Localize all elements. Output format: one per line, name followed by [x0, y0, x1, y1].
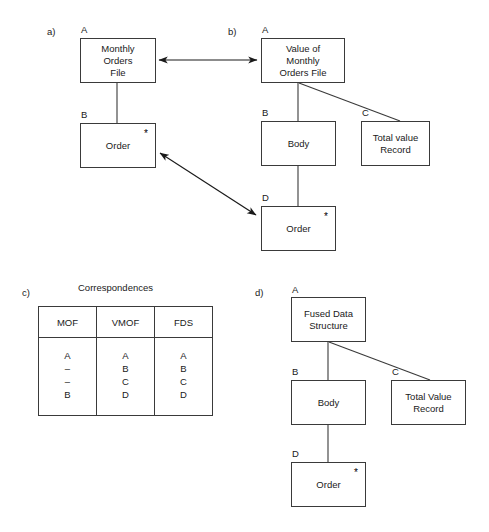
- node-label-b-C: Total value Record: [373, 132, 418, 156]
- table-header-vmof: VMOF: [97, 307, 155, 338]
- node-tag-b-B: B: [262, 108, 268, 118]
- node-tag-d-A: A: [292, 285, 298, 295]
- node-tag-a-A: A: [81, 25, 87, 35]
- correspondences-table: MOF VMOF FDS A – – B A B C D A B C D: [38, 306, 213, 416]
- node-total-value-record-d[interactable]: Total Value Record: [391, 380, 466, 425]
- panel-label-a: a): [47, 26, 55, 37]
- node-label-b-D: Order: [286, 223, 310, 235]
- node-label-b-A: Value of Monthly Orders File: [280, 43, 327, 79]
- table-cell-vmof: A B C D: [97, 338, 155, 416]
- node-label-d-B: Body: [318, 397, 340, 409]
- node-tag-d-B: B: [292, 367, 298, 377]
- node-value-of-monthly-orders-file[interactable]: Value of Monthly Orders File: [261, 38, 345, 83]
- node-label-b-B: Body: [288, 138, 310, 150]
- node-label-a-A: Monthly Orders File: [101, 43, 134, 79]
- table-row: A – – B A B C D A B C D: [39, 338, 213, 416]
- panel-label-d: d): [255, 287, 263, 298]
- node-tag-d-C: C: [392, 367, 399, 377]
- connector-d-A-to-C: [329, 342, 430, 380]
- table-header-fds: FDS: [155, 307, 213, 338]
- node-body-d[interactable]: Body: [291, 380, 366, 425]
- panel-label-c: c): [22, 287, 30, 298]
- node-tag-b-D: D: [262, 193, 269, 203]
- connector-b-A-to-C: [299, 83, 400, 121]
- node-label-d-D: Order: [316, 479, 340, 491]
- node-label-d-C: Total Value Record: [405, 391, 451, 415]
- table-cell-fds: A B C D: [155, 338, 213, 416]
- correspondences-title: Correspondences: [78, 282, 153, 293]
- table-header-mof: MOF: [39, 307, 97, 338]
- panel-label-b: b): [228, 26, 236, 37]
- node-fused-data-structure[interactable]: Fused Data Structure: [291, 297, 366, 342]
- node-total-value-record-b[interactable]: Total value Record: [361, 121, 430, 166]
- node-label-d-A: Fused Data Structure: [304, 308, 353, 332]
- node-tag-b-C: C: [362, 108, 369, 118]
- node-tag-b-A: A: [262, 25, 268, 35]
- correspondence-arrow-diagonal: [160, 153, 256, 215]
- connector-layer: [0, 0, 489, 532]
- node-tag-a-B: B: [81, 110, 87, 120]
- repetition-star-icon-b-D: *: [324, 213, 328, 221]
- repetition-star-icon-d-D: *: [354, 469, 358, 477]
- repetition-star-icon-a-B: *: [144, 130, 148, 138]
- node-tag-d-D: D: [292, 449, 299, 459]
- table-header-row: MOF VMOF FDS: [39, 307, 213, 338]
- node-body-b[interactable]: Body: [261, 121, 336, 166]
- node-label-a-B: Order: [106, 140, 130, 152]
- table-cell-mof: A – – B: [39, 338, 97, 416]
- node-monthly-orders-file[interactable]: Monthly Orders File: [80, 38, 156, 83]
- figure-canvas: a) A Monthly Orders File B Order * b) A …: [0, 0, 489, 532]
